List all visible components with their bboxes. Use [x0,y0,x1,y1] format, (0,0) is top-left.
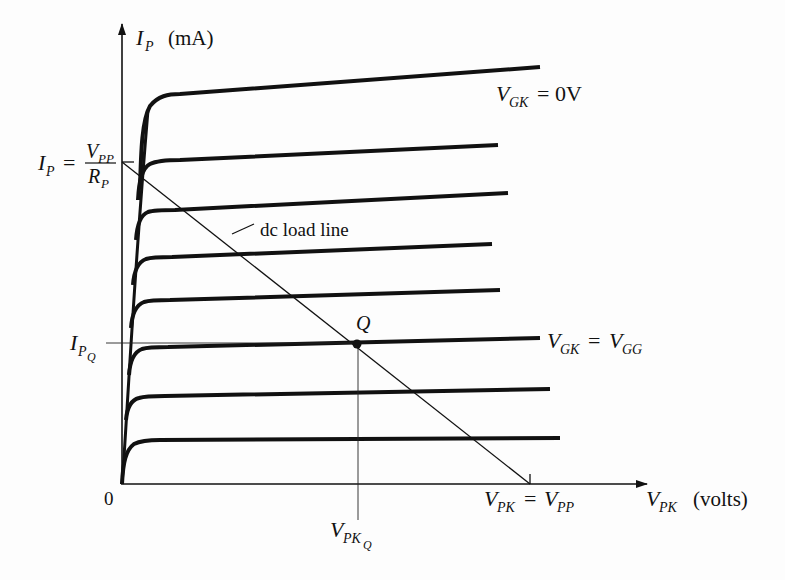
characteristics-diagram: I P (mA) I P = V PP R P dc load line Q I… [0,0,785,580]
curve-2 [138,145,498,200]
svg-text:(mA): (mA) [168,26,214,50]
ipq-label: I P Q [69,330,96,364]
svg-text:P: P [144,39,154,54]
curve-steep-rise [122,110,148,484]
curve-8 [122,438,560,484]
svg-text:P: P [45,164,55,179]
svg-text:(volts): (volts) [693,487,748,511]
svg-text:P: P [77,344,87,359]
load-line-label: dc load line [260,219,349,240]
q-label: Q [356,312,371,334]
q-point [353,340,362,349]
svg-text:PP: PP [556,500,575,515]
svg-text:=: = [588,328,600,353]
svg-text:=: = [63,150,75,175]
x-axis-label: V PK (volts) [646,486,748,515]
svg-text:R: R [87,165,100,187]
svg-text:PK: PK [658,500,678,515]
x-intercept-label: V PK = V PP [484,486,575,515]
plate-curves [122,67,560,484]
svg-text:GK: GK [560,342,580,357]
svg-text:PP: PP [97,151,114,166]
curve-5 [131,290,500,328]
curve-label-vgk-vgg: V GK = V GG [547,328,642,357]
svg-text:Q: Q [363,538,372,552]
dc-load-line [122,162,530,484]
svg-text:P: P [100,176,109,191]
svg-text:=: = [524,486,536,511]
load-line-leader [232,224,254,234]
curve-7 [126,389,550,420]
vpkq-label: V PK Q [330,517,372,552]
curve-4 [133,244,492,285]
svg-text:I: I [135,25,145,50]
y-intercept-label: I P = V PP R P [37,140,116,191]
y-axis-label: I P (mA) [135,25,214,54]
origin-label: 0 [104,488,114,509]
svg-text:GK: GK [509,95,529,110]
svg-text:= 0V: = 0V [537,81,582,106]
curve-label-vgk-0v: V GK = 0V [496,81,582,110]
svg-text:PK: PK [496,500,516,515]
curve-vgk-0v [140,67,540,188]
svg-text:PK: PK [342,531,362,546]
svg-text:GG: GG [622,342,642,357]
svg-text:Q: Q [87,350,96,364]
curve-vgk-vgg [129,338,540,375]
